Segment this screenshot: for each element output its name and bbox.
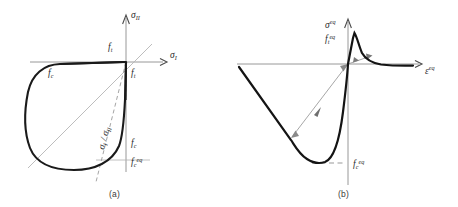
panel-b-drawing: σeq εeq fteq fceq: [229, 0, 458, 207]
unloading-secant-arrow: [291, 64, 348, 138]
label-stress-ratio: σI / σII: [96, 125, 113, 151]
panel-a: ft ft fc fc fceq σI: [0, 0, 229, 207]
label-fc-left: fc: [48, 68, 54, 79]
failure-envelope-curve: [25, 62, 126, 170]
tension-branch-arrow: [348, 54, 373, 65]
axis-label-epsilon-eq: εeq: [425, 64, 435, 76]
label-fceq: fceq: [131, 156, 142, 168]
label-ft-top: ft: [108, 42, 113, 53]
axis-sigma-eq: [345, 19, 352, 185]
caption-panel-a: (a): [0, 189, 229, 199]
caption-panel-b: (b): [229, 189, 458, 199]
axis-label-sigma-i: σI: [170, 50, 178, 61]
label-ft-right: ft: [131, 68, 136, 79]
label-fteq: fteq: [325, 33, 335, 45]
envelope-right-edge: [126, 62, 127, 100]
compression-branch-curve: [239, 64, 348, 163]
panel-b: σeq εeq fteq fceq (b): [229, 0, 458, 207]
panel-a-drawing: ft ft fc fc fceq σI: [0, 0, 229, 207]
label-fceq-b: fceq: [353, 158, 364, 170]
label-fc-right: fc: [131, 138, 137, 149]
axis-label-sigma-eq: σeq: [325, 18, 336, 30]
axis-label-sigma-ii: σII: [131, 10, 141, 21]
figure-container: ft ft fc fc fceq σI: [0, 0, 458, 207]
